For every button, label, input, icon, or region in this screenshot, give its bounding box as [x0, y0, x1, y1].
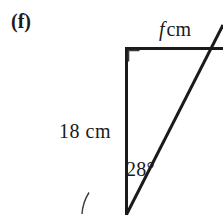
angle-arc-icon — [82, 193, 89, 215]
hypotenuse-line — [127, 25, 224, 215]
left-side-length-label: 18 cm — [59, 121, 111, 141]
top-side-unit: cm — [167, 18, 191, 40]
right-angle-marker-icon — [129, 51, 140, 62]
part-label: (f) — [11, 11, 31, 31]
figure-container: (f) fcm 18 cm 28° — [0, 0, 223, 218]
top-side-variable: f — [159, 18, 167, 40]
angle-measure-label: 28° — [126, 159, 155, 179]
top-side-length-label: fcm — [159, 19, 191, 39]
